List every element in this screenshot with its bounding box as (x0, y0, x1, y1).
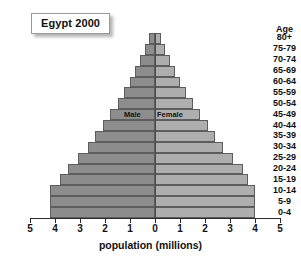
age-label-80+: 80+ (268, 32, 301, 42)
male-series-label: Male (124, 110, 141, 119)
age-label-5-9: 5-9 (268, 196, 301, 206)
male-bar-30-34 (88, 142, 156, 153)
male-bar-5-9 (50, 196, 155, 207)
age-label-0-4: 0-4 (268, 207, 301, 217)
x-tick-label: 4 (252, 223, 258, 234)
female-bar-35-39 (155, 131, 215, 142)
female-bar-25-29 (155, 153, 233, 164)
x-tick-label: 2 (102, 223, 108, 234)
female-bar-55-59 (155, 87, 186, 98)
x-tick-label: 4 (52, 223, 58, 234)
male-bar-20-24 (68, 164, 156, 175)
x-axis-label: population (millions) (0, 239, 301, 251)
female-bar-70-74 (155, 55, 170, 66)
x-tick-label: 1 (127, 223, 133, 234)
male-bar-60-64 (130, 77, 155, 88)
female-bar-75-79 (155, 44, 165, 55)
female-bar-50-54 (155, 98, 193, 109)
age-label-20-24: 20-24 (268, 163, 301, 173)
x-tick-label: 0 (152, 223, 158, 234)
female-bar-5-9 (155, 196, 255, 207)
x-tick-label: 3 (77, 223, 83, 234)
male-bar-70-74 (140, 55, 155, 66)
age-label-55-59: 55-59 (268, 87, 301, 97)
male-bar-10-14 (50, 185, 155, 196)
age-label-50-54: 50-54 (268, 98, 301, 108)
x-tick-label: 5 (277, 223, 283, 234)
female-bar-10-14 (155, 185, 255, 196)
male-bar-15-19 (60, 174, 155, 185)
x-tick-label: 1 (177, 223, 183, 234)
female-series-label: Female (157, 110, 183, 119)
male-bar-50-54 (118, 98, 156, 109)
age-label-65-69: 65-69 (268, 65, 301, 75)
male-bar-75-79 (145, 44, 155, 55)
age-label-30-34: 30-34 (268, 141, 301, 151)
age-label-60-64: 60-64 (268, 76, 301, 86)
female-bar-60-64 (155, 77, 180, 88)
male-bar-35-39 (95, 131, 155, 142)
female-bar-15-19 (155, 174, 248, 185)
female-bar-20-24 (155, 164, 243, 175)
male-bar-25-29 (78, 153, 156, 164)
female-bar-40-44 (155, 120, 208, 131)
age-label-15-19: 15-19 (268, 174, 301, 184)
center-axis-line (155, 33, 156, 218)
age-label-70-74: 70-74 (268, 54, 301, 64)
x-tick-label: 3 (227, 223, 233, 234)
x-tick-label: 2 (202, 223, 208, 234)
age-label-25-29: 25-29 (268, 152, 301, 162)
female-bar-30-34 (155, 142, 223, 153)
male-bar-0-4 (50, 207, 155, 218)
age-label-75-79: 75-79 (268, 43, 301, 53)
age-label-45-49: 45-49 (268, 109, 301, 119)
male-bar-65-69 (135, 66, 155, 77)
female-bar-65-69 (155, 66, 175, 77)
age-label-35-39: 35-39 (268, 130, 301, 140)
male-bar-55-59 (124, 87, 155, 98)
chart-title-box: Egypt 2000 (31, 13, 110, 34)
age-label-40-44: 40-44 (268, 120, 301, 130)
male-bar-40-44 (103, 120, 156, 131)
x-tick-label: 5 (27, 223, 33, 234)
population-pyramid-chart: Egypt 2000 Male Female 54321012345 popul… (0, 0, 301, 260)
age-label-10-14: 10-14 (268, 185, 301, 195)
female-bar-0-4 (155, 207, 255, 218)
